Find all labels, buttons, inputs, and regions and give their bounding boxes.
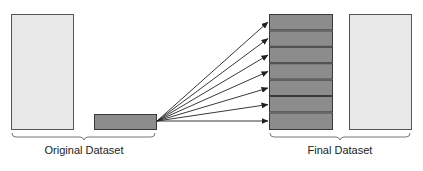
final-brace <box>270 133 410 140</box>
sample-box <box>95 115 157 130</box>
replicated-samples-stack <box>270 15 333 130</box>
final-dataset-label: Final Dataset <box>308 144 373 156</box>
original-dataset-box <box>12 15 74 130</box>
diagram-canvas: Original Dataset Final Dataset <box>0 0 423 171</box>
arrows <box>157 22 268 121</box>
original-dataset-label: Original Dataset <box>45 144 124 156</box>
final-dataset-box <box>350 15 412 130</box>
original-brace <box>12 133 155 140</box>
